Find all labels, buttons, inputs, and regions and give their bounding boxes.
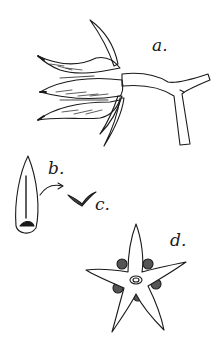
label-c: c. bbox=[95, 196, 110, 213]
label-a: a. bbox=[152, 37, 168, 54]
flower-side-view bbox=[38, 20, 210, 146]
illustration-drawing bbox=[0, 0, 224, 340]
part-c bbox=[68, 192, 96, 206]
botanical-illustration: a. b. c. d. bbox=[0, 0, 224, 340]
label-d: d. bbox=[170, 232, 186, 249]
label-b: b. bbox=[48, 160, 64, 177]
